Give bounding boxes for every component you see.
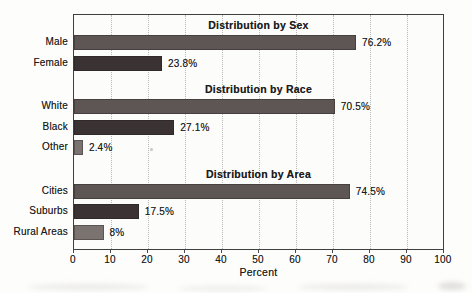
x-tick-label-70: 70 (312, 254, 352, 265)
x-tick-mark-70 (332, 250, 333, 253)
gridline-40 (222, 15, 223, 249)
scan-artifact (438, 282, 466, 290)
x-tick-label-50: 50 (238, 254, 278, 265)
category-label-suburbs: Suburbs (29, 203, 68, 218)
value-label-suburbs: 17.5% (145, 204, 174, 219)
category-label-rural-areas: Rural Areas (14, 224, 68, 239)
x-tick-mark-50 (258, 250, 259, 253)
value-label-male: 76.2% (362, 35, 391, 50)
category-label-white: White (41, 98, 68, 113)
x-tick-mark-60 (295, 250, 296, 253)
category-label-male: Male (46, 34, 68, 49)
value-label-black: 27.1% (180, 120, 209, 135)
x-tick-mark-10 (110, 250, 111, 253)
gridline-50 (259, 15, 260, 249)
bar-female (74, 56, 162, 71)
x-tick-label-100: 100 (423, 254, 463, 265)
x-tick-mark-100 (443, 250, 444, 253)
plot-area: Distribution by Sex76.2%23.8%Distributio… (73, 14, 444, 250)
x-tick-label-20: 20 (127, 254, 167, 265)
x-tick-label-40: 40 (201, 254, 241, 265)
bar-other (74, 140, 83, 155)
value-label-other: 2.4% (89, 140, 113, 155)
x-tick-mark-90 (406, 250, 407, 253)
gridline-60 (296, 15, 297, 249)
bar-suburbs (74, 204, 139, 219)
gridline-90 (407, 15, 408, 249)
scanned-chart-page: Distribution by Sex76.2%23.8%Distributio… (0, 0, 472, 293)
gridline-80 (370, 15, 371, 249)
x-tick-label-60: 60 (275, 254, 315, 265)
value-label-cities: 74.5% (356, 184, 385, 199)
gridline-70 (333, 15, 334, 249)
x-tick-label-90: 90 (386, 254, 426, 265)
scan-artifact (178, 286, 268, 291)
x-tick-mark-20 (147, 250, 148, 253)
value-label-white: 70.5% (341, 99, 370, 114)
category-label-black: Black (43, 119, 68, 134)
bar-cities (74, 184, 350, 199)
scan-artifact (150, 148, 153, 151)
category-label-other: Other (42, 139, 68, 154)
bar-male (74, 35, 356, 50)
bar-black (74, 120, 174, 135)
x-tick-mark-80 (369, 250, 370, 253)
group-title-area: Distribution by Area (74, 167, 443, 181)
category-label-cities: Cities (42, 183, 68, 198)
scan-artifact (298, 284, 408, 290)
x-tick-label-0: 0 (53, 254, 93, 265)
value-label-female: 23.8% (168, 56, 197, 71)
x-axis-title: Percent (73, 266, 444, 278)
x-tick-mark-30 (184, 250, 185, 253)
bar-rural-areas (74, 225, 104, 240)
group-title-sex: Distribution by Sex (74, 18, 443, 32)
x-tick-label-30: 30 (164, 254, 204, 265)
category-label-female: Female (33, 55, 68, 70)
x-tick-mark-40 (221, 250, 222, 253)
scan-artifact (28, 284, 148, 290)
x-tick-mark-0 (73, 250, 74, 253)
group-title-race: Distribution by Race (74, 82, 443, 96)
x-tick-label-80: 80 (349, 254, 389, 265)
x-tick-label-10: 10 (90, 254, 130, 265)
value-label-rural-areas: 8% (110, 225, 125, 240)
bar-white (74, 99, 335, 114)
